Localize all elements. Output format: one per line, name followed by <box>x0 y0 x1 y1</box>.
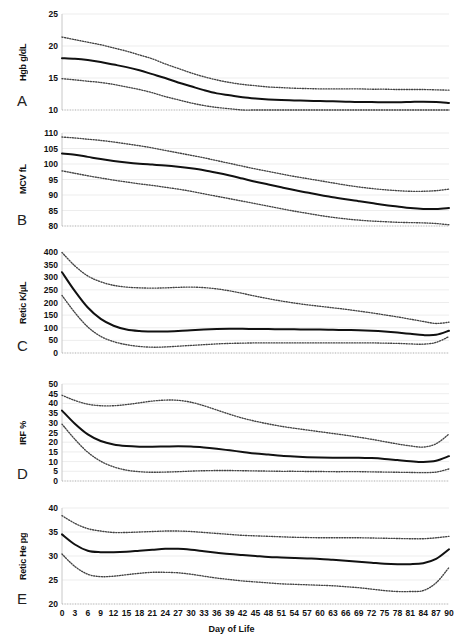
x-tick-label: 81 <box>406 608 415 618</box>
x-tick-label: 90 <box>444 608 453 618</box>
y-tick-label: 35 <box>30 527 58 537</box>
series-line-upper-percentile <box>62 516 449 539</box>
x-tick-label: 21 <box>148 608 157 618</box>
x-tick-label: 15 <box>122 608 131 618</box>
x-tick-label: 3 <box>73 608 78 618</box>
x-tick-label: 24 <box>160 608 169 618</box>
x-tick-label: 78 <box>393 608 402 618</box>
x-axis-title: Day of Life <box>0 624 463 634</box>
y-tick-label: 40 <box>30 503 58 513</box>
x-tick-label: 57 <box>302 608 311 618</box>
figure-container: 10152025Hgb g/dLA80859095100105110MCV fL… <box>0 0 463 640</box>
y-tick-label: 30 <box>30 551 58 561</box>
panel-e-plot <box>0 0 463 640</box>
series-line-lower-percentile <box>62 554 449 592</box>
x-tick-label: 72 <box>367 608 376 618</box>
x-tick-label: 42 <box>238 608 247 618</box>
x-tick-label: 51 <box>277 608 286 618</box>
x-tick-label: 0 <box>60 608 65 618</box>
x-tick-label: 63 <box>328 608 337 618</box>
x-tick-label: 75 <box>380 608 389 618</box>
x-tick-label: 54 <box>289 608 298 618</box>
x-tick-label: 12 <box>109 608 118 618</box>
x-tick-label: 30 <box>186 608 195 618</box>
x-tick-label: 66 <box>341 608 350 618</box>
x-tick-label: 84 <box>418 608 427 618</box>
x-tick-label: 6 <box>85 608 90 618</box>
x-tick-label: 39 <box>225 608 234 618</box>
x-tick-label: 45 <box>251 608 260 618</box>
x-tick-label: 33 <box>199 608 208 618</box>
y-tick-label: 25 <box>30 575 58 585</box>
x-tick-label: 87 <box>431 608 440 618</box>
x-tick-label: 60 <box>315 608 324 618</box>
x-tick-label: 18 <box>135 608 144 618</box>
x-tick-label: 27 <box>173 608 182 618</box>
x-tick-label: 9 <box>98 608 103 618</box>
x-axis-tick-labels: 0369121518212427303336394245485154576063… <box>0 608 463 624</box>
x-tick-label: 69 <box>354 608 363 618</box>
x-tick-label: 48 <box>264 608 273 618</box>
panel-letter-e: E <box>17 590 27 607</box>
x-tick-label: 36 <box>212 608 221 618</box>
